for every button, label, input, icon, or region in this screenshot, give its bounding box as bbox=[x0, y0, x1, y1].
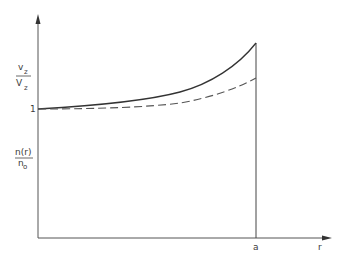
x-axis-label: r bbox=[318, 242, 322, 252]
y-axis-arrow-icon bbox=[36, 14, 41, 24]
ylabel-velocity-ratio: v z V z bbox=[16, 62, 31, 92]
svg-text:z: z bbox=[24, 84, 28, 92]
x-tick-label-a: a bbox=[253, 242, 259, 252]
svg-text:V: V bbox=[16, 78, 23, 88]
chart-svg: 1 v z V z n(r) n o a r bbox=[0, 0, 341, 260]
svg-text:n(r): n(r) bbox=[15, 147, 31, 157]
ylabel-density-ratio: n(r) n o bbox=[15, 147, 33, 171]
svg-text:z: z bbox=[24, 68, 28, 76]
y-tick-label-1: 1 bbox=[30, 104, 36, 114]
svg-text:o: o bbox=[23, 163, 27, 171]
series-velocity-curve bbox=[38, 43, 256, 109]
chart-figure: 1 v z V z n(r) n o a r bbox=[0, 0, 341, 260]
x-axis-arrow-icon bbox=[322, 236, 332, 241]
series-density-curve bbox=[38, 78, 256, 109]
